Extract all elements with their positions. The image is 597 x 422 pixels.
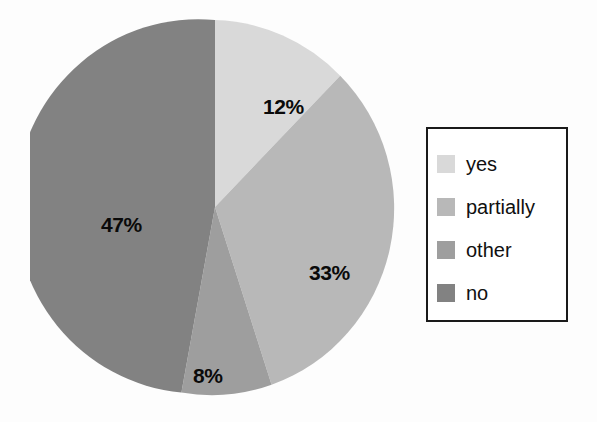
pie-chart-figure: 12% 33% 8% 47% yes partially other no xyxy=(0,0,597,422)
legend-item-no[interactable]: no xyxy=(437,271,566,314)
legend-item-other[interactable]: other xyxy=(437,228,566,271)
legend-item-partially[interactable]: partially xyxy=(437,185,566,228)
pie-label-yes: 12% xyxy=(263,96,304,117)
pie-chart-plot-area: 12% 33% 8% 47% xyxy=(30,18,400,396)
legend-swatch-partially xyxy=(437,198,455,216)
pie-label-partially: 33% xyxy=(309,262,350,283)
legend-swatch-other xyxy=(437,241,455,259)
pie-label-other: 8% xyxy=(193,365,223,386)
pie-svg xyxy=(30,18,400,396)
legend-swatch-no xyxy=(437,284,455,302)
legend-label-no: no xyxy=(466,283,488,303)
legend-swatch-yes xyxy=(437,155,455,173)
chart-legend: yes partially other no xyxy=(426,127,568,322)
legend-label-other: other xyxy=(466,240,512,260)
legend-item-yes[interactable]: yes xyxy=(437,142,566,185)
legend-label-yes: yes xyxy=(466,154,497,174)
pie-label-no: 47% xyxy=(101,214,142,235)
pie-slice-no[interactable] xyxy=(30,19,215,392)
legend-label-partially: partially xyxy=(466,197,535,217)
